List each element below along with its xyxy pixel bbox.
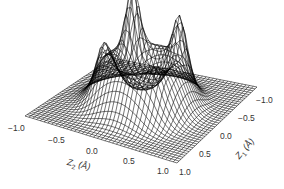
z2-tick-0: −1.0 (8, 124, 25, 133)
z1-tick-1: 0.5 (199, 150, 211, 159)
z2-tick-2: 0.0 (86, 147, 98, 156)
z2-sub: 2 (71, 163, 76, 171)
z1-tick-3: −0.5 (238, 114, 255, 123)
z1-tick-0: 1.0 (179, 168, 191, 177)
z2-tick-1: −0.5 (48, 136, 65, 145)
z2-tick-3: 0.5 (123, 157, 135, 166)
z2-tick-4: 1.0 (157, 167, 169, 176)
z1-tick-2: 0.0 (220, 132, 232, 141)
z2-unit: (Å) (78, 159, 92, 171)
z1-tick-4: −1.0 (256, 96, 273, 105)
